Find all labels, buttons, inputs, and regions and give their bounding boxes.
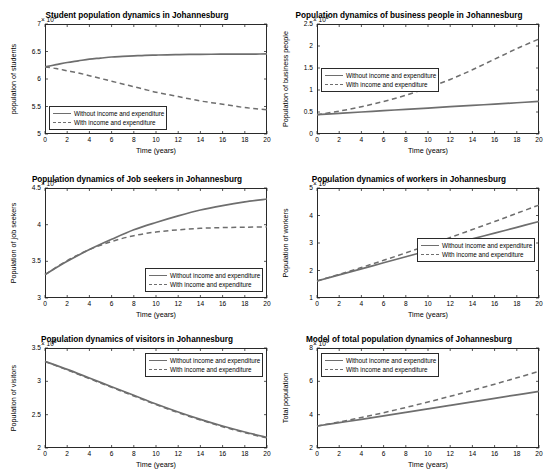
x-tick-label: 14 [191,450,209,457]
y-axis-label-workers: Population of workers [281,188,290,298]
x-tick-label: 10 [147,300,165,307]
legend-visitors: Without income and expenditureWith incom… [145,353,263,377]
legend-item-without: Without income and expenditure [325,356,435,365]
legend-label: Without income and expenditure [346,72,436,79]
x-tick-label: 2 [330,450,348,457]
x-tick-label: 4 [80,300,98,307]
legend-label: With income and expenditure [170,366,252,373]
series-line-without [45,199,267,275]
y-axis-label-students: population of students [9,24,18,134]
x-tick-label: 12 [441,300,459,307]
legend-item-with: With income and expenditure [325,80,435,89]
x-tick-label: 16 [214,300,232,307]
x-tick-label: 8 [397,300,415,307]
legend-line-sample-dashed [149,369,167,370]
x-tick-label: 18 [508,450,526,457]
y-axis-exponent-visitors: × 105 [41,338,57,347]
legend-item-without: Without income and expenditure [149,271,259,280]
chart-panel-total-population: Model of total population dynamics of Jo… [273,335,545,469]
legend-item-without: Without income and expenditure [325,71,435,80]
x-tick-label: 12 [169,450,187,457]
legend-item-with: With income and expenditure [325,365,435,374]
x-tick-label: 0 [36,450,54,457]
chart-panel-workers: Population dynamics of workers in Johann… [273,175,545,325]
x-tick-label: 8 [397,136,415,143]
x-tick-label: 4 [80,136,98,143]
x-tick-label: 8 [125,450,143,457]
x-tick-label: 18 [236,300,254,307]
legend-line-sample-dashed [325,84,343,85]
x-tick-label: 0 [308,300,326,307]
legend-label: With income and expenditure [170,281,252,288]
x-tick-label: 16 [486,300,504,307]
x-tick-label: 10 [419,450,437,457]
legend-line-sample-dashed [325,369,343,370]
legend-item-with: With income and expenditure [53,118,163,127]
legend-label: With income and expenditure [74,119,156,126]
x-tick-label: 12 [441,450,459,457]
x-tick-label: 8 [397,450,415,457]
series-line-with [317,371,539,426]
x-tick-label: 14 [463,450,481,457]
x-tick-label: 0 [308,136,326,143]
legend-item-without: Without income and expenditure [53,109,163,118]
x-tick-label: 2 [58,450,76,457]
legend-line-sample-solid [325,75,343,76]
x-tick-label: 16 [214,136,232,143]
legend-line-sample-dashed [421,254,439,255]
series-line-without [317,391,539,426]
legend-workers: Without income and expenditureWith incom… [417,238,535,262]
legend-job-seekers: Without income and expenditureWith incom… [145,268,263,292]
legend-label: Without income and expenditure [74,110,164,117]
x-tick-label: 14 [463,300,481,307]
x-tick-label: 14 [463,136,481,143]
legend-label: With income and expenditure [346,366,428,373]
series-line-without [45,54,267,67]
x-tick-label: 16 [214,450,232,457]
x-tick-label: 18 [236,136,254,143]
x-tick-label: 16 [486,136,504,143]
x-tick-label: 12 [169,300,187,307]
x-tick-label: 6 [375,136,393,143]
x-tick-label: 10 [419,300,437,307]
chart-panel-business-people: Population dynamics of business people i… [273,11,545,161]
figure-canvas: Student population dynamics in Johannesb… [0,0,558,469]
legend-line-sample-solid [149,360,167,361]
legend-label: Without income and expenditure [442,242,532,249]
series-line-without [317,101,539,114]
x-axis-label-visitors: Time (years) [45,460,267,469]
x-tick-label: 18 [508,300,526,307]
legend-item-without: Without income and expenditure [421,241,531,250]
legend-label: With income and expenditure [346,81,428,88]
legend-business-people: Without income and expenditureWith incom… [321,68,439,92]
x-tick-label: 2 [58,300,76,307]
x-tick-label: 14 [191,300,209,307]
legend-line-sample-dashed [149,284,167,285]
chart-panel-visitors: Population dynamics of visitors in Johan… [1,335,273,469]
x-tick-label: 10 [147,450,165,457]
x-tick-label: 4 [80,450,98,457]
legend-item-with: With income and expenditure [149,365,259,374]
x-tick-label: 2 [58,136,76,143]
x-tick-label: 12 [169,136,187,143]
x-axis-label-workers: Time (years) [317,310,539,319]
x-tick-label: 16 [486,450,504,457]
y-axis-exponent-total-population: × 106 [313,338,329,347]
y-axis-label-job-seekers: Population of job seekers [9,188,18,298]
x-tick-label: 2 [330,300,348,307]
chart-panel-students: Student population dynamics in Johannesb… [1,11,273,161]
x-tick-label: 0 [308,450,326,457]
y-axis-label-total-population: Total population [281,348,290,448]
x-axis-label-total-population: Time (years) [317,460,539,469]
series-line-with [45,67,267,110]
x-tick-label: 20 [530,136,548,143]
legend-total-population: Without income and expenditureWith incom… [321,353,439,377]
x-axis-label-job-seekers: Time (years) [45,310,267,319]
x-tick-label: 6 [103,136,121,143]
y-axis-label-business-people: Population of business people [281,24,290,134]
x-tick-label: 18 [236,450,254,457]
y-axis-label-visitors: Population of visitors [9,348,18,448]
x-tick-label: 4 [352,300,370,307]
legend-line-sample-dashed [53,122,71,123]
x-tick-label: 18 [508,136,526,143]
